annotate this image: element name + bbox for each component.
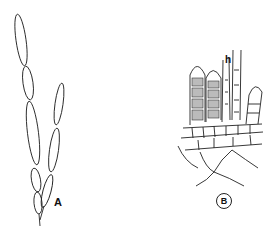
panel-label-a: A <box>54 196 62 208</box>
panel-label-b: B <box>216 193 232 209</box>
annotation-h: h <box>225 54 231 65</box>
figure: A h B <box>0 0 271 237</box>
